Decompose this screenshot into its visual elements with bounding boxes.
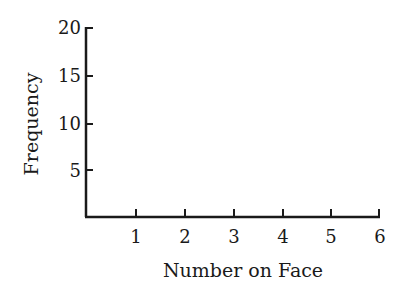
x-tick-label-2: 2	[179, 226, 190, 247]
y-tick-label-15: 15	[58, 65, 81, 86]
y-axis-title: Frequency	[20, 72, 42, 175]
x-tick-label-5: 5	[325, 226, 336, 247]
x-tick-label-6: 6	[374, 226, 385, 247]
y-tick-label-10: 10	[58, 113, 81, 134]
y-tick-label-5: 5	[70, 160, 81, 181]
x-tick-label-4: 4	[277, 226, 288, 247]
x-tick-label-3: 3	[228, 226, 239, 247]
chart-canvas: 20 15 10 5 1 2 3 4 5 6 Number on Face Fr…	[0, 0, 403, 289]
x-axis-title: Number on Face	[163, 259, 323, 281]
x-tick-label-1: 1	[130, 226, 141, 247]
y-tick-label-20: 20	[58, 17, 81, 38]
